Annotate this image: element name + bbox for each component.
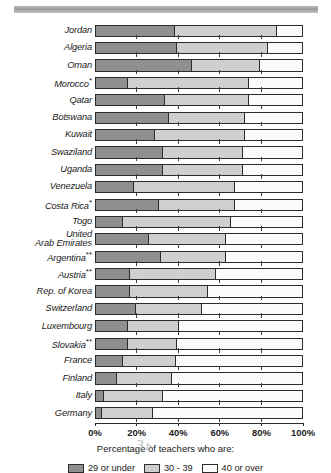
category-label: Qatar — [0, 96, 95, 106]
bar-segment — [225, 252, 302, 262]
bar-segment — [101, 408, 151, 418]
category-label: Switzerland — [0, 304, 95, 314]
scan-artifact-band — [14, 6, 318, 13]
bar-segment — [168, 113, 244, 123]
category-label: Togo — [0, 217, 95, 227]
bar-segment — [158, 200, 234, 210]
bar-segment — [96, 182, 133, 192]
bar-segment — [122, 356, 176, 366]
legend-swatch — [202, 464, 218, 473]
chart-row: Austria** — [0, 265, 331, 282]
bar-segment — [135, 304, 201, 314]
x-axis-tick — [219, 423, 220, 426]
bar-segment — [152, 408, 302, 418]
category-label: Algeria — [0, 43, 95, 53]
legend-item: 40 or over — [202, 463, 263, 473]
chart-row: Luxembourg — [0, 318, 331, 335]
bar-segment — [127, 321, 179, 331]
x-axis-tick — [136, 423, 137, 426]
bar-segment — [244, 113, 302, 123]
category-label: Uganda — [0, 165, 95, 175]
bar-segment — [248, 95, 302, 105]
bar-segment — [116, 373, 172, 383]
stacked-bar — [95, 164, 303, 176]
stacked-bar — [95, 77, 303, 89]
bar-segment — [230, 217, 302, 227]
bar-segment — [191, 60, 259, 70]
stacked-bar — [95, 94, 303, 106]
category-label: Costa Rica* — [0, 198, 95, 212]
stacked-bar — [95, 251, 303, 263]
bar-segment — [176, 43, 267, 53]
bar-segment — [96, 78, 127, 88]
x-axis-tick-label: 80% — [252, 427, 271, 438]
stacked-bar — [95, 355, 303, 367]
stacked-bar — [95, 25, 303, 37]
bar-segment — [96, 217, 122, 227]
legend-item: 29 or under — [68, 463, 135, 473]
chart-row: Italy — [0, 387, 331, 404]
bar-segment — [171, 373, 302, 383]
stacked-bar — [95, 320, 303, 332]
chart-row: Botswana — [0, 109, 331, 126]
x-axis-label: Percentage of teachers who are: — [0, 443, 331, 454]
x-axis-tick-label: 40% — [169, 427, 188, 438]
category-label: Botswana — [0, 113, 95, 123]
chart-row: Togo — [0, 213, 331, 230]
bar-segment — [259, 60, 302, 70]
chart-row: Argentina** — [0, 248, 331, 265]
legend-label: 30 - 39 — [164, 463, 193, 473]
bar-segment — [96, 391, 103, 401]
stacked-bar — [95, 303, 303, 315]
chart-row: Kuwait — [0, 126, 331, 143]
bar-segment — [127, 78, 249, 88]
bar-segment — [96, 356, 122, 366]
x-axis-tick — [95, 423, 96, 426]
chart-row: Finland — [0, 370, 331, 387]
category-label: Italy — [0, 391, 95, 401]
bar-segment — [162, 147, 242, 157]
bar-segment — [175, 356, 302, 366]
category-label: Morocco* — [0, 76, 95, 90]
bar-segment — [96, 200, 158, 210]
bar-segment — [225, 234, 302, 244]
footnote-marker: * — [89, 198, 92, 207]
stacked-bar — [95, 407, 303, 419]
stacked-bar — [95, 199, 303, 211]
category-label: Swaziland — [0, 148, 95, 158]
bar-segment — [162, 391, 302, 401]
bar-segment — [96, 43, 176, 53]
stacked-bar — [95, 42, 303, 54]
stacked-bar-chart: JordanAlgeriaOmanMorocco*QatarBotswanaKu… — [0, 22, 331, 422]
chart-row: Switzerland — [0, 300, 331, 317]
x-axis-tick — [303, 423, 304, 426]
footnote-marker: * — [89, 76, 92, 85]
bar-segment — [129, 286, 207, 296]
chart-row: France — [0, 352, 331, 369]
bar-segment — [122, 217, 230, 227]
category-label: Jordan — [0, 26, 95, 36]
x-axis-tick-label: 20% — [127, 427, 146, 438]
x-axis-tick — [178, 423, 179, 426]
category-label: Slovakia** — [0, 337, 95, 351]
bar-segment — [234, 200, 302, 210]
category-label: Luxembourg — [0, 322, 95, 332]
stacked-bar — [95, 285, 303, 297]
bar-segment — [96, 165, 162, 175]
bar-segment — [215, 269, 302, 279]
bar-segment — [133, 182, 234, 192]
stacked-bar — [95, 216, 303, 228]
stacked-bar — [95, 268, 303, 280]
stacked-bar — [95, 338, 303, 350]
bar-segment — [96, 234, 148, 244]
x-axis-tick-label: 0% — [88, 427, 102, 438]
stacked-bar — [95, 372, 303, 384]
bar-segment — [129, 269, 216, 279]
stacked-bar — [95, 59, 303, 71]
chart-row: Qatar — [0, 92, 331, 109]
x-axis-tick — [261, 423, 262, 426]
bar-segment — [160, 252, 225, 262]
bar-segment — [96, 373, 116, 383]
category-label: Venezuela — [0, 182, 95, 192]
bar-segment — [96, 147, 162, 157]
